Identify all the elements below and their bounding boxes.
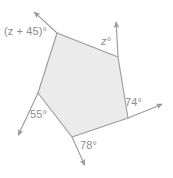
pentagon-shape: [38, 33, 128, 137]
angle-label-left: 55°: [30, 109, 47, 120]
angle-label-top-right: z°: [101, 36, 111, 47]
angle-label-right: 74°: [125, 97, 142, 108]
angle-label-bottom: 78°: [80, 140, 97, 151]
geometry-figure: (z + 45)° z° 74° 78° 55°: [0, 0, 173, 178]
angle-label-top-left: (z + 45)°: [4, 26, 47, 37]
ray-top-right: [116, 22, 118, 57]
